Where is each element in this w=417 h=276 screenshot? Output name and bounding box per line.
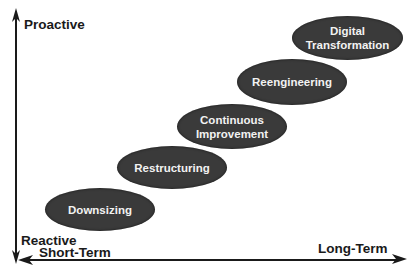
stage-label-line1: Downsizing xyxy=(68,203,132,217)
strategy-diagram: Proactive Reactive Short-Term Long-Term … xyxy=(0,0,417,276)
stage-digital-transformation: Digital Transformation xyxy=(292,16,403,60)
stage-label-line1: Digital xyxy=(306,24,390,38)
stage-reengineering: Reengineering xyxy=(237,59,347,105)
long-term-label: Long-Term xyxy=(318,242,388,256)
stage-label-line1: Restructuring xyxy=(134,161,209,175)
stage-label-line1: Reengineering xyxy=(252,75,332,89)
stage-label-line1: Continuous xyxy=(196,113,268,127)
stage-label-line2: Transformation xyxy=(306,38,390,52)
proactive-label: Proactive xyxy=(24,18,85,32)
short-term-label: Short-Term xyxy=(39,246,111,260)
vertical-axis-arrow xyxy=(12,8,20,264)
stage-label-line2: Improvement xyxy=(196,127,268,141)
stage-restructuring: Restructuring xyxy=(117,146,227,189)
stage-continuous-improvement: Continuous Improvement xyxy=(177,104,287,149)
stage-downsizing: Downsizing xyxy=(45,188,155,231)
